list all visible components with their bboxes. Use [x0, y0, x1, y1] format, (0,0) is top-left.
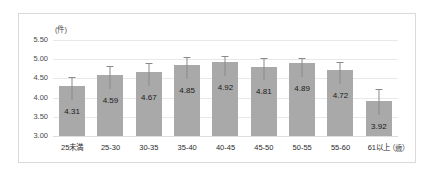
y-axis-tick-label: 4.00 — [33, 94, 48, 102]
bar-value-label: 4.67 — [141, 94, 157, 102]
bar-value-label: 4.92 — [218, 84, 234, 92]
error-bar-cap — [375, 89, 382, 90]
error-bar — [72, 77, 73, 99]
error-bar — [302, 58, 303, 78]
y-axis-tick-label: 3.00 — [33, 132, 48, 140]
x-axis-tick-label: 35-40 — [178, 144, 197, 152]
x-axis-tick-label: 45-50 — [254, 144, 273, 152]
y-axis-tick-label: 3.50 — [33, 113, 48, 121]
y-axis-tick-label: 4.50 — [33, 75, 48, 83]
bar-group: 3.9261以上 — [360, 40, 398, 136]
x-axis-tick-label: 55-60 — [331, 144, 350, 152]
x-axis-tick-label: 30-35 — [139, 144, 158, 152]
error-bar-cap — [145, 63, 152, 64]
bar-group: 4.8950-55 — [283, 40, 321, 136]
bar-value-label: 4.85 — [179, 87, 195, 95]
x-axis-tick-label: 50-55 — [293, 144, 312, 152]
bar-value-label: 4.59 — [103, 97, 119, 105]
error-bar-cap — [337, 62, 344, 63]
plot-area: 5.505.004.504.003.503.004.3125未満4.5925-3… — [53, 40, 398, 136]
x-axis-tick-label: 61以上 — [368, 144, 390, 152]
bar-group: 4.7255-60 — [321, 40, 359, 136]
bar-value-label: 4.81 — [256, 88, 272, 96]
error-bar-cap — [107, 66, 114, 67]
bar-group: 4.8145-50 — [245, 40, 283, 136]
bar-value-label: 4.72 — [333, 92, 349, 100]
error-bar-cap — [222, 56, 229, 57]
chart-figure: (件) （歳） 5.505.004.504.003.503.004.3125未満… — [18, 13, 416, 163]
error-bar — [110, 66, 111, 88]
y-axis-unit-label: (件) — [55, 26, 67, 34]
error-bar-cap — [260, 58, 267, 59]
bar-value-label: 4.31 — [64, 108, 80, 116]
error-bar — [148, 63, 149, 86]
error-bar-cap — [299, 58, 306, 59]
error-bar — [225, 56, 226, 77]
bar-group: 4.5925-30 — [91, 40, 129, 136]
bar-group: 4.3125未満 — [53, 40, 91, 136]
error-bar — [340, 62, 341, 84]
bar-group: 4.6730-35 — [130, 40, 168, 136]
error-bar — [263, 58, 264, 80]
error-bar-cap — [184, 57, 191, 58]
x-axis-tick-label: 40-45 — [216, 144, 235, 152]
gridline — [53, 136, 398, 137]
error-bar — [187, 57, 188, 79]
error-bar — [378, 89, 379, 115]
bar-value-label: 3.92 — [371, 123, 387, 131]
x-axis-tick-label: 25未満 — [61, 144, 83, 152]
y-axis-tick-label: 5.00 — [33, 55, 48, 63]
x-axis-unit-label: （歳） — [388, 145, 409, 153]
x-axis-tick-label: 25-30 — [101, 144, 120, 152]
bar-value-label: 4.89 — [294, 85, 310, 93]
y-axis-tick-label: 5.50 — [33, 36, 48, 44]
error-bar-cap — [69, 77, 76, 78]
bar-group: 4.8535-40 — [168, 40, 206, 136]
bar-group: 4.9240-45 — [206, 40, 244, 136]
